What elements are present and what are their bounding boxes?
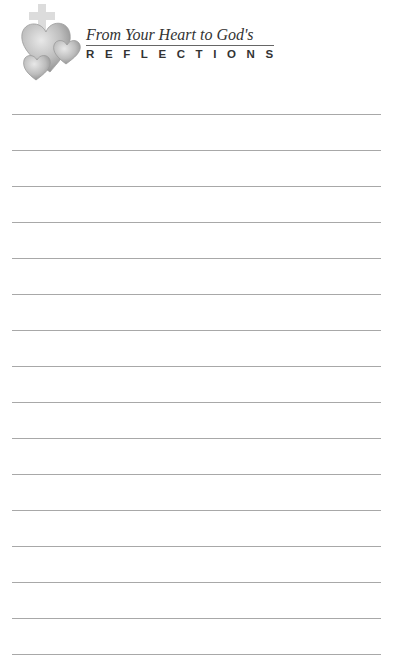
hearts-and-cross-icon (14, 2, 86, 82)
writing-line (12, 258, 381, 259)
writing-line (12, 438, 381, 439)
writing-line (12, 114, 381, 115)
writing-line (12, 474, 381, 475)
header-rule (86, 45, 274, 46)
writing-line (12, 546, 381, 547)
writing-line (12, 402, 381, 403)
writing-line (12, 618, 381, 619)
page-header: From Your Heart to God's REFLECTIONS (86, 26, 284, 60)
writing-line (12, 654, 381, 655)
writing-line (12, 366, 381, 367)
writing-line (12, 582, 381, 583)
writing-line (12, 150, 381, 151)
writing-line (12, 510, 381, 511)
writing-line (12, 186, 381, 187)
header-subtitle: From Your Heart to God's (86, 26, 284, 44)
header-title: REFLECTIONS (86, 48, 284, 60)
cropped-running-header (170, 0, 395, 4)
writing-line (12, 222, 381, 223)
writing-line (12, 330, 381, 331)
writing-line (12, 294, 381, 295)
writing-lines (12, 114, 381, 672)
